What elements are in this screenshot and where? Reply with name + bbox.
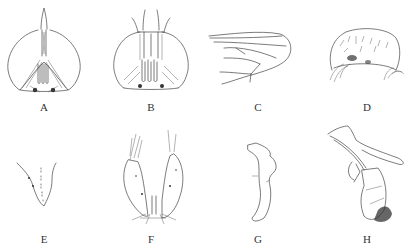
panel-h-drawing <box>328 126 403 222</box>
panel-c-drawing <box>209 32 291 84</box>
panel-label-h: H <box>363 234 371 245</box>
panel-label-b: B <box>147 102 154 113</box>
panel-label-e: E <box>41 234 48 245</box>
figure-drawings <box>0 0 415 249</box>
figure: A B C D E F G H <box>0 0 415 249</box>
panel-e-drawing <box>17 163 56 206</box>
panel-d-drawing <box>330 29 404 82</box>
panel-a-drawing <box>8 8 80 92</box>
panel-b-drawing <box>114 10 189 90</box>
panel-label-f: F <box>148 234 154 245</box>
panel-f-drawing <box>124 130 183 224</box>
panel-label-c: C <box>254 102 261 113</box>
panel-label-d: D <box>363 102 371 113</box>
panel-label-g: G <box>254 234 262 245</box>
panel-label-a: A <box>40 102 48 113</box>
panel-g-drawing <box>248 143 276 221</box>
